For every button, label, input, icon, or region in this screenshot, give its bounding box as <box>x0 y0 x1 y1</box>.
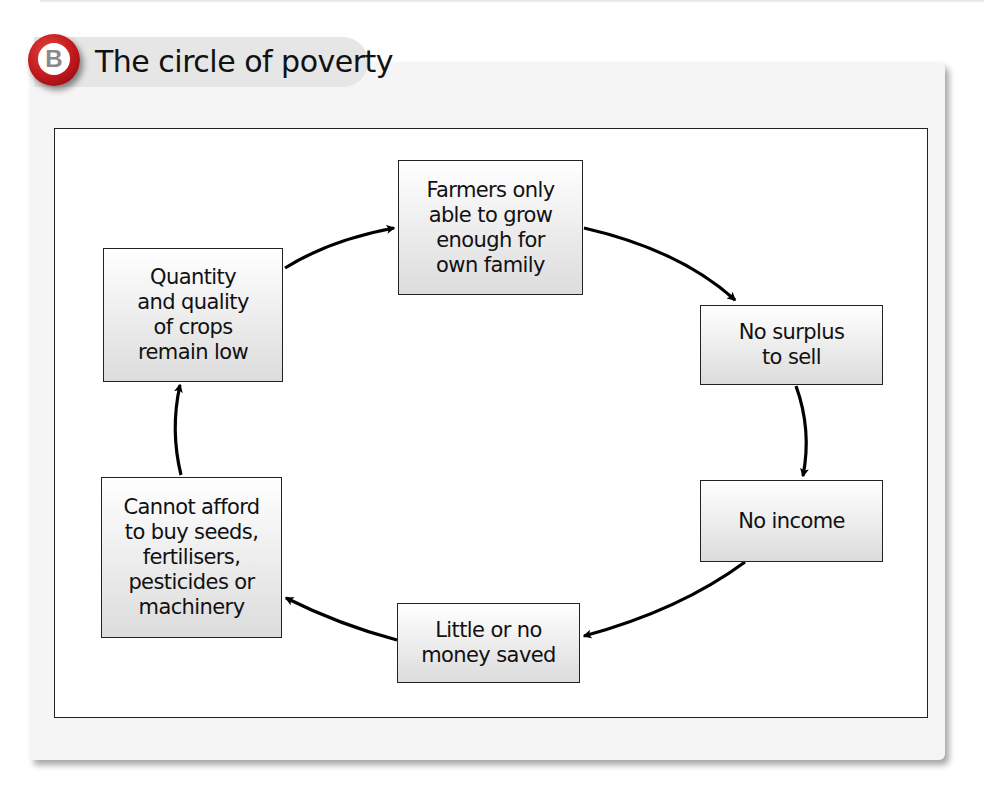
node-crops-low: Quantity and quality of crops remain low <box>103 248 283 382</box>
node-no-income: No income <box>700 480 883 562</box>
node-no-surplus: No surplus to sell <box>700 305 883 385</box>
arrow-surplus-to-income <box>796 386 806 476</box>
arrow-farmers-to-surplus <box>584 228 735 300</box>
node-cannot-afford: Cannot afford to buy seeds, fertilisers,… <box>101 477 282 638</box>
node-farmers: Farmers only able to grow enough for own… <box>398 160 583 295</box>
arrow-savings-to-afford <box>286 598 397 640</box>
arrow-crops-to-farmers <box>285 228 394 268</box>
node-little-money: Little or no money saved <box>397 603 580 683</box>
arrow-afford-to-crops <box>175 385 181 475</box>
arrow-income-to-savings <box>584 562 745 636</box>
